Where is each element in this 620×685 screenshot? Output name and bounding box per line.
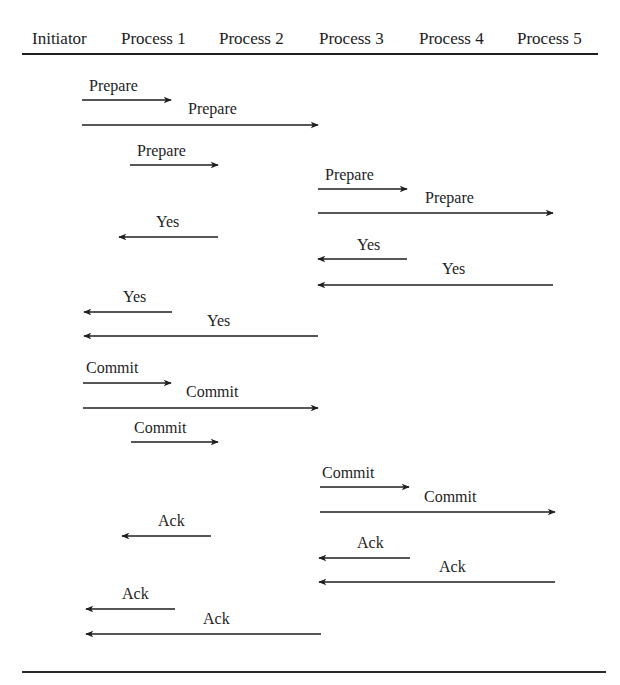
message-label-commit: Commit <box>134 419 186 437</box>
message-label-ack: Ack <box>122 585 149 603</box>
message-label-yes: Yes <box>123 288 146 306</box>
message-label-yes: Yes <box>442 260 465 278</box>
message-label-ack: Ack <box>158 512 185 530</box>
message-label-ack: Ack <box>203 610 230 628</box>
message-label-ack: Ack <box>439 558 466 576</box>
message-label-prepare: Prepare <box>188 100 237 118</box>
message-label-ack: Ack <box>357 534 384 552</box>
message-label-prepare: Prepare <box>137 142 186 160</box>
message-label-prepare: Prepare <box>89 77 138 95</box>
message-label-prepare: Prepare <box>425 189 474 207</box>
message-label-commit: Commit <box>86 359 138 377</box>
message-label-yes: Yes <box>156 213 179 231</box>
message-label-yes: Yes <box>207 312 230 330</box>
message-label-prepare: Prepare <box>325 166 374 184</box>
message-label-commit: Commit <box>424 488 476 506</box>
message-label-commit: Commit <box>322 464 374 482</box>
message-arrows <box>0 0 620 685</box>
message-label-commit: Commit <box>186 383 238 401</box>
message-label-yes: Yes <box>357 236 380 254</box>
